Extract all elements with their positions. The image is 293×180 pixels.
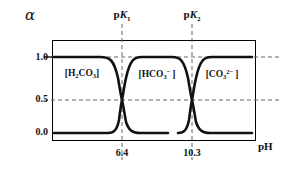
species-label-hco3: [HCO3− ] bbox=[139, 68, 176, 80]
pk1-label: pK1 bbox=[114, 8, 131, 23]
y-tick-0.5: 0.5 bbox=[36, 93, 49, 104]
pk2-label: pK2 bbox=[184, 8, 201, 23]
species-label-co3: [CO32− ] bbox=[206, 68, 239, 80]
y-tick-labels: 1.0 0.5 0.0 bbox=[8, 0, 48, 180]
x-tick-10.3: 10.3 bbox=[183, 147, 201, 158]
y-tick-0.0: 0.0 bbox=[36, 126, 49, 137]
x-axis-label: pH bbox=[258, 140, 273, 152]
x-tick-6.4: 6.4 bbox=[116, 147, 129, 158]
species-label-h2co3: [H2CO3] bbox=[65, 68, 99, 79]
carbonate-speciation-figure: α pH pK1 pK2 1.0 0.5 0.0 6.4 10.3 [H2CO3… bbox=[0, 0, 293, 180]
y-tick-1.0: 1.0 bbox=[36, 51, 49, 62]
